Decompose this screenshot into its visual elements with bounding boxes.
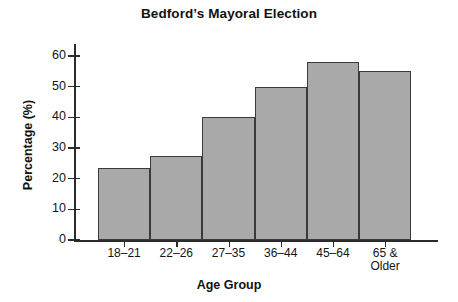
bar <box>307 62 359 240</box>
bar <box>150 156 202 240</box>
y-axis-tick-label: 60 <box>20 49 66 62</box>
y-axis-tick <box>68 178 80 179</box>
y-axis-tick-label: 10 <box>20 202 66 215</box>
x-axis-category-label: 65 & Older <box>349 247 421 273</box>
y-axis-tick <box>68 86 80 87</box>
y-axis-tick <box>68 117 80 118</box>
bar <box>202 117 254 240</box>
y-axis-tick-label: 50 <box>20 80 66 93</box>
y-axis-tick-label: 0 <box>20 233 66 246</box>
bar-chart: Bedford’s Mayoral Election Percentage (%… <box>0 0 458 302</box>
bar <box>255 87 307 240</box>
chart-title: Bedford’s Mayoral Election <box>0 6 458 21</box>
y-axis-tick <box>68 209 80 210</box>
x-axis-line <box>74 240 438 242</box>
bar <box>359 71 411 240</box>
y-axis-line <box>74 44 76 241</box>
y-axis-tick-label: 20 <box>20 172 66 185</box>
y-axis-tick-label: 40 <box>20 110 66 123</box>
x-axis-title: Age Group <box>0 278 458 292</box>
y-axis-tick <box>68 239 80 240</box>
bar <box>98 168 150 240</box>
y-axis-tick <box>68 55 80 56</box>
y-axis-tick-label: 30 <box>20 141 66 154</box>
y-axis-tick <box>68 147 80 148</box>
